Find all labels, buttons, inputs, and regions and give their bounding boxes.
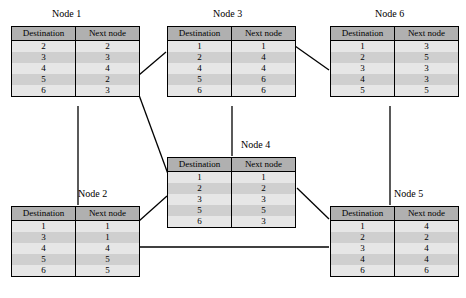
- table-header-row: DestinationNext node: [168, 158, 296, 172]
- link-node3-node6: [295, 46, 329, 70]
- cell-next-node: 6: [395, 265, 459, 277]
- cell-destination: 6: [12, 85, 76, 97]
- table-row: 22: [331, 232, 459, 243]
- cell-next-node: 5: [76, 265, 140, 277]
- node-title-node6: Node 6: [375, 8, 404, 20]
- column-header-destination: Destination: [331, 27, 395, 41]
- table-row: 63: [12, 85, 140, 97]
- table-row: 56: [168, 74, 296, 85]
- cell-destination: 5: [168, 205, 232, 216]
- column-header-destination: Destination: [168, 158, 232, 172]
- table-header-row: DestinationNext node: [12, 27, 140, 41]
- cell-next-node: 1: [232, 41, 296, 53]
- cell-next-node: 5: [76, 254, 140, 265]
- cell-destination: 6: [331, 265, 395, 277]
- table-row: 22: [12, 41, 140, 53]
- cell-destination: 1: [168, 172, 232, 184]
- cell-next-node: 3: [76, 52, 140, 63]
- table-row: 52: [12, 74, 140, 85]
- table-row: 44: [12, 243, 140, 254]
- cell-destination: 2: [168, 183, 232, 194]
- table-row: 14: [331, 221, 459, 233]
- table-row: 44: [331, 254, 459, 265]
- table-row: 63: [168, 216, 296, 228]
- cell-destination: 5: [12, 74, 76, 85]
- cell-destination: 6: [12, 265, 76, 277]
- table-row: 11: [168, 41, 296, 53]
- cell-destination: 4: [331, 74, 395, 85]
- cell-next-node: 2: [76, 41, 140, 53]
- table-header-row: DestinationNext node: [331, 207, 459, 221]
- node-title-node4: Node 4: [241, 139, 270, 151]
- column-header-destination: Destination: [168, 27, 232, 41]
- table-row: 31: [12, 232, 140, 243]
- routing-diagram: Node 1DestinationNext node2233445263Node…: [0, 0, 466, 298]
- cell-next-node: 3: [395, 74, 459, 85]
- cell-destination: 4: [12, 243, 76, 254]
- cell-destination: 2: [168, 52, 232, 63]
- cell-destination: 2: [331, 52, 395, 63]
- table-row: 34: [331, 243, 459, 254]
- cell-destination: 1: [168, 41, 232, 53]
- table-row: 65: [12, 265, 140, 277]
- cell-next-node: 4: [232, 63, 296, 74]
- table-row: 33: [331, 63, 459, 74]
- column-header-destination: Destination: [331, 207, 395, 221]
- cell-next-node: 3: [76, 85, 140, 97]
- table-row: 33: [12, 52, 140, 63]
- routing-table-node4: DestinationNext node1122335563: [167, 157, 296, 228]
- node-title-node3: Node 3: [213, 8, 242, 20]
- column-header-next-node: Next node: [76, 207, 140, 221]
- table-row: 66: [168, 85, 296, 97]
- routing-table-node6: DestinationNext node1325334355: [330, 26, 459, 97]
- cell-next-node: 4: [395, 221, 459, 233]
- table-row: 55: [168, 205, 296, 216]
- table-row: 22: [168, 183, 296, 194]
- cell-next-node: 4: [232, 52, 296, 63]
- cell-destination: 3: [12, 52, 76, 63]
- table-row: 25: [331, 52, 459, 63]
- cell-destination: 5: [12, 254, 76, 265]
- cell-next-node: 4: [76, 63, 140, 74]
- cell-next-node: 3: [232, 216, 296, 228]
- table-header-row: DestinationNext node: [331, 27, 459, 41]
- table-row: 55: [12, 254, 140, 265]
- table-row: 44: [12, 63, 140, 74]
- cell-next-node: 5: [395, 52, 459, 63]
- cell-next-node: 2: [395, 232, 459, 243]
- cell-next-node: 1: [76, 221, 140, 233]
- table-header-row: DestinationNext node: [12, 207, 140, 221]
- table-header-row: DestinationNext node: [168, 27, 296, 41]
- cell-destination: 5: [168, 74, 232, 85]
- cell-destination: 3: [12, 232, 76, 243]
- table-row: 43: [331, 74, 459, 85]
- cell-destination: 5: [331, 85, 395, 97]
- cell-next-node: 3: [232, 194, 296, 205]
- routing-table-node1: DestinationNext node2233445263: [11, 26, 140, 97]
- cell-next-node: 4: [395, 254, 459, 265]
- table-row: 11: [168, 172, 296, 184]
- cell-destination: 6: [168, 85, 232, 97]
- cell-destination: 3: [331, 63, 395, 74]
- column-header-next-node: Next node: [232, 158, 296, 172]
- column-header-next-node: Next node: [395, 27, 459, 41]
- cell-next-node: 2: [232, 183, 296, 194]
- routing-table-node3: DestinationNext node1124445666: [167, 26, 296, 97]
- cell-destination: 1: [331, 41, 395, 53]
- column-header-next-node: Next node: [232, 27, 296, 41]
- cell-next-node: 4: [395, 243, 459, 254]
- link-node1-node3: [139, 52, 166, 75]
- cell-destination: 6: [168, 216, 232, 228]
- cell-next-node: 5: [395, 85, 459, 97]
- cell-next-node: 1: [232, 172, 296, 184]
- cell-destination: 4: [331, 254, 395, 265]
- table-row: 11: [12, 221, 140, 233]
- cell-destination: 1: [331, 221, 395, 233]
- cell-next-node: 4: [76, 243, 140, 254]
- link-node4-node5: [297, 188, 329, 219]
- column-header-next-node: Next node: [76, 27, 140, 41]
- cell-next-node: 6: [232, 85, 296, 97]
- cell-destination: 1: [12, 221, 76, 233]
- routing-table-node5: DestinationNext node1422344466: [330, 206, 459, 277]
- routing-table-node2: DestinationNext node1131445565: [11, 206, 140, 277]
